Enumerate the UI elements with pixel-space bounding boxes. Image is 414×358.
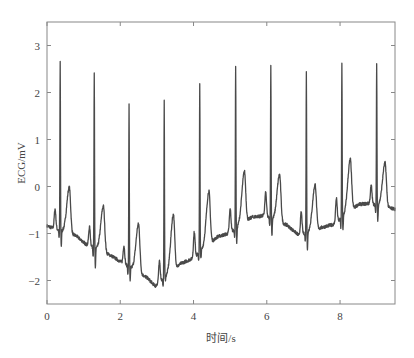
y-tick-label: 3 (35, 40, 41, 52)
x-tick-label: 0 (44, 310, 50, 322)
y-axis-label: ECG/mV (15, 142, 27, 184)
x-tick-label: 8 (337, 310, 343, 322)
ecg-chart: 02468 −2−10123 时间/s ECG/mV (0, 0, 414, 358)
x-axis-label: 时间/s (206, 332, 235, 344)
y-tick-label: 0 (35, 181, 41, 193)
x-tick-label: 2 (118, 310, 124, 322)
y-tick-label: 2 (35, 87, 41, 99)
x-tick-label: 6 (264, 310, 270, 322)
y-tick-label: 1 (35, 134, 41, 146)
y-tick-label: −1 (28, 228, 40, 240)
y-tick-label: −2 (28, 275, 40, 287)
x-tick-label: 4 (191, 310, 197, 322)
